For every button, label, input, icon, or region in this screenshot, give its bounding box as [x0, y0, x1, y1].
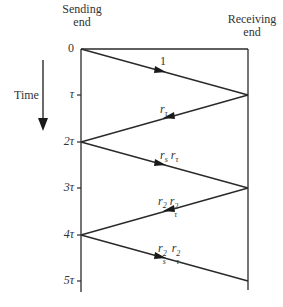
- tick-5tau: 5τ: [64, 274, 74, 287]
- tick-4tau: 4τ: [64, 228, 74, 241]
- subscript: τ: [175, 155, 178, 164]
- wave-3-label: rs rτ: [160, 149, 178, 166]
- subscript: 2: [163, 201, 167, 210]
- tick-0: 0: [68, 42, 74, 55]
- tick-tau: τ: [70, 88, 74, 101]
- receiving-end-line-2: end: [222, 26, 282, 39]
- subscript: s: [165, 155, 168, 164]
- subscript: s: [163, 255, 166, 268]
- wave-5-label: r2s r2τ: [158, 242, 182, 255]
- wave-1-coefficient: 1: [160, 54, 166, 68]
- tick-2tau: 2τ: [64, 135, 74, 148]
- tick-3tau: 3τ: [64, 181, 74, 194]
- wave-4-label: r2 r2τ: [158, 195, 180, 212]
- tick-labels: 0 τ 2τ 3τ 4τ 5τ: [40, 0, 74, 307]
- wave-2-label: rτ: [160, 103, 168, 120]
- receiving-end-label: Receiving end: [222, 13, 282, 39]
- subscript: τ: [176, 255, 179, 268]
- subscript: τ: [165, 109, 168, 118]
- time-label: Time: [14, 89, 39, 102]
- wave-1-label: 1: [160, 55, 166, 68]
- subscript: τ: [174, 208, 177, 221]
